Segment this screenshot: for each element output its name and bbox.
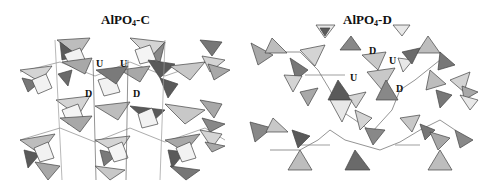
label-u-3: U <box>389 55 396 66</box>
label-u-4: U <box>350 72 357 83</box>
panel-title-d: AlPO4-D <box>343 12 392 28</box>
framework-structure-d <box>0 0 486 190</box>
label-d-4: D <box>396 83 403 94</box>
label-d-3: D <box>369 45 376 56</box>
panel-alpo4-d: AlPO4-D D U U D <box>0 0 486 190</box>
